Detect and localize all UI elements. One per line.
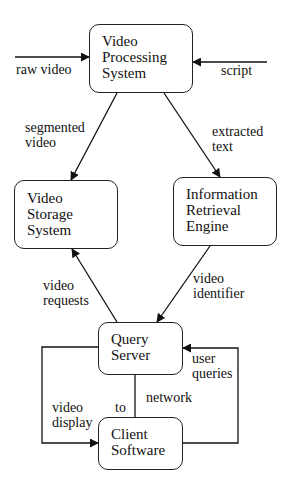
node-video-processing-system: Video Processing System <box>89 24 193 93</box>
node-label: Information Retrieval Engine <box>186 186 258 234</box>
node-video-storage-system: Video Storage System <box>14 180 118 249</box>
node-query-server: Query Server <box>98 322 183 375</box>
node-label: Query Server <box>111 331 150 363</box>
label-network: network <box>146 390 192 405</box>
label-video-display: video display <box>52 400 92 430</box>
node-label: Video Storage System <box>27 190 73 238</box>
label-video-requests: video requests <box>43 278 89 308</box>
label-video-identifier: video identifier <box>193 271 244 301</box>
label-raw-video: raw video <box>16 62 72 77</box>
label-user-queries: user queries <box>192 351 232 381</box>
label-script: script <box>221 63 252 78</box>
node-label: Client Software <box>111 426 165 458</box>
node-information-retrieval-engine: Information Retrieval Engine <box>173 177 277 246</box>
label-to: to <box>115 400 126 415</box>
label-extracted-text: extracted text <box>212 124 263 154</box>
label-segmented-video: segmented video <box>25 120 85 150</box>
node-label: Video Processing System <box>102 33 167 81</box>
node-client-software: Client Software <box>98 417 183 470</box>
